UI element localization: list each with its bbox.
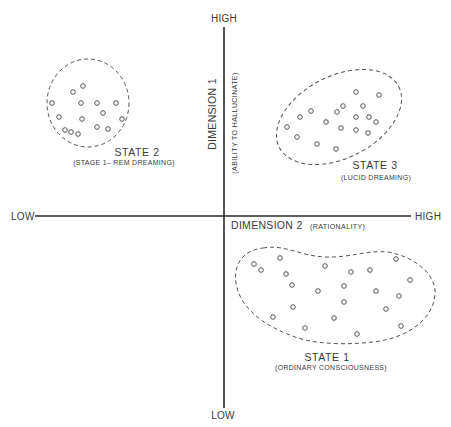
state-2-cluster: STATE 2 (STAGE 1– REM DREAMING)	[47, 59, 175, 167]
consciousness-states-diagram: HIGH LOW LOW HIGH DIMENSION 1 (ABILITY T…	[0, 0, 451, 427]
data-point	[303, 326, 308, 331]
data-point	[361, 104, 366, 109]
state-3-title: STATE 3	[352, 159, 397, 171]
data-point	[342, 284, 347, 289]
vertical-low-label: LOW	[211, 410, 235, 421]
data-point	[295, 135, 300, 140]
data-point	[63, 128, 68, 133]
data-point	[349, 270, 354, 275]
state-3-cluster: STATE 3 (LUCID DREAMING)	[261, 50, 418, 184]
data-point	[80, 117, 85, 122]
horizontal-high-label: HIGH	[415, 211, 441, 222]
dimension-2-title: DIMENSION 2	[231, 219, 303, 231]
data-point	[50, 101, 55, 106]
data-point	[397, 294, 402, 299]
data-point	[323, 264, 328, 269]
vertical-high-label: HIGH	[211, 13, 237, 24]
state-1-title: STATE 1	[304, 351, 349, 363]
dimension-1-title: DIMENSION 1	[206, 78, 218, 150]
data-point	[335, 110, 340, 115]
data-point	[368, 268, 373, 273]
dimension-2-subtitle: (RATIONALITY)	[310, 223, 365, 231]
axes: HIGH LOW LOW HIGH DIMENSION 1 (ABILITY T…	[11, 13, 441, 421]
data-point	[106, 127, 111, 132]
data-point	[114, 101, 119, 106]
horizontal-low-label: LOW	[11, 211, 35, 222]
data-point	[341, 104, 346, 109]
data-point	[315, 142, 320, 147]
data-point	[354, 115, 359, 120]
data-point	[354, 128, 359, 133]
data-point	[69, 130, 74, 135]
state-2-title: STATE 2	[114, 146, 159, 158]
data-point	[278, 256, 283, 261]
data-point	[57, 115, 62, 120]
data-point	[342, 300, 347, 305]
data-point	[377, 93, 382, 98]
data-point	[366, 131, 371, 136]
data-point	[298, 115, 303, 120]
dimension-2-label: DIMENSION 2 (RATIONALITY)	[231, 215, 365, 232]
state-1-cluster: STATE 1 (ORDINARY CONSCIOUSNESS)	[236, 247, 436, 372]
data-point	[309, 109, 314, 114]
data-point	[95, 125, 100, 130]
data-point	[334, 147, 339, 152]
data-point	[324, 120, 329, 125]
data-point	[316, 289, 321, 294]
data-point	[374, 289, 379, 294]
data-point	[101, 111, 106, 116]
data-point	[291, 305, 296, 310]
data-point	[354, 90, 359, 95]
state-2-subtitle: (STAGE 1– REM DREAMING)	[73, 159, 175, 167]
data-point	[271, 315, 276, 320]
state-3-subtitle: (LUCID DREAMING)	[341, 174, 411, 182]
data-point	[339, 126, 344, 131]
data-point	[355, 332, 360, 337]
data-point	[71, 90, 76, 95]
dimension-1-subtitle: (ABILITY TO HALLUCINATE)	[231, 72, 239, 173]
state-1-points	[252, 256, 413, 337]
data-point	[290, 283, 295, 288]
data-point	[408, 278, 413, 283]
data-point	[384, 307, 389, 312]
data-point	[399, 324, 404, 329]
data-point	[79, 101, 84, 106]
data-point	[332, 316, 337, 321]
state-1-outline	[236, 247, 436, 344]
data-point	[284, 272, 289, 277]
data-point	[81, 84, 86, 89]
data-point	[95, 101, 100, 106]
data-point	[367, 115, 372, 120]
data-point	[120, 117, 125, 122]
data-point	[374, 120, 379, 125]
data-point	[252, 262, 257, 267]
data-point	[285, 125, 290, 130]
data-point	[76, 132, 81, 137]
state-2-points	[50, 84, 125, 137]
data-point	[259, 268, 264, 273]
state-3-points	[285, 90, 382, 152]
state-1-subtitle: (ORDINARY CONSCIOUSNESS)	[275, 364, 387, 372]
data-point	[394, 257, 399, 262]
